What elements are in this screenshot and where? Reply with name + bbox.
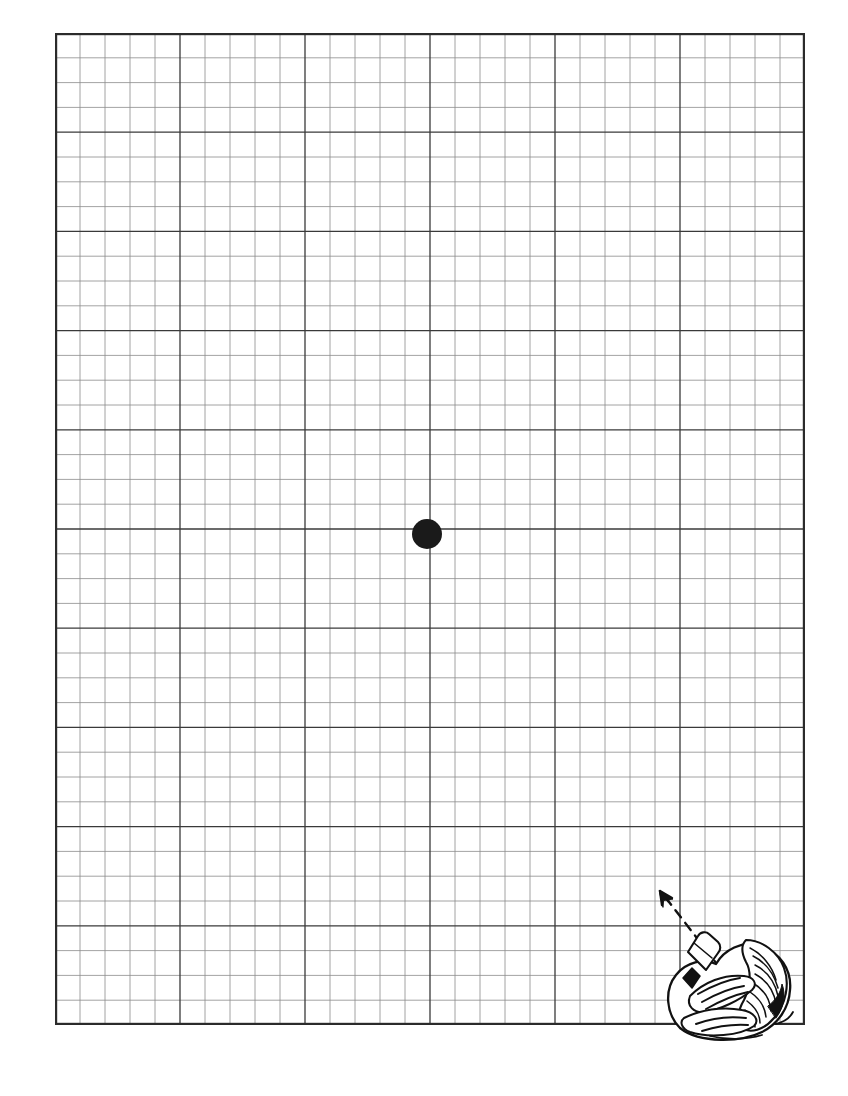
amsler-grid-page [0, 0, 848, 1096]
central-fixation-dot [412, 519, 442, 549]
